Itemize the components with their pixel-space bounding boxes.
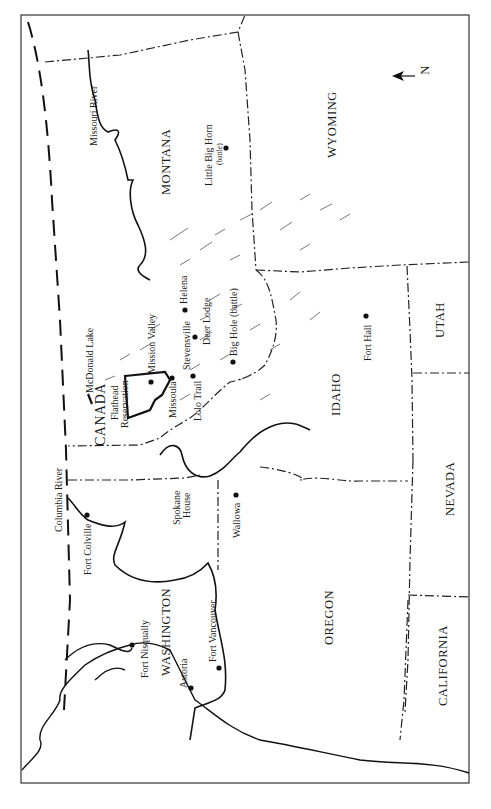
dot-missoula bbox=[169, 375, 174, 380]
label-wyoming: WYOMING bbox=[325, 91, 339, 158]
dot-fort-colville bbox=[84, 512, 89, 517]
snake-river bbox=[160, 423, 310, 477]
label-washington: WASHINGTON bbox=[159, 588, 173, 676]
label-deer-lodge: Deer Lodge bbox=[201, 297, 212, 345]
label-idaho: IDAHO bbox=[329, 373, 343, 416]
label-utah: UTAH bbox=[433, 302, 447, 338]
dot-mission-valley bbox=[148, 379, 153, 384]
label-flathead-2: Reservation bbox=[119, 380, 130, 428]
dot-fort-nisqually bbox=[129, 642, 134, 647]
label-columbia-river: Columbia River bbox=[53, 467, 64, 532]
label-missouri-river: Missouri River bbox=[88, 85, 99, 146]
label-wallowa: Wallowa bbox=[231, 502, 242, 538]
label-helena: Helena bbox=[178, 275, 189, 304]
label-big-hole: Big Hole (battle) bbox=[228, 288, 240, 356]
dot-stevensville bbox=[190, 373, 195, 378]
dot-deer-lodge bbox=[192, 334, 197, 339]
north-label: N bbox=[418, 65, 432, 75]
label-montana: MONTANA bbox=[159, 129, 173, 195]
label-little-big-horn-note: (battle) bbox=[215, 143, 224, 165]
label-fort-hall: Fort Hall bbox=[362, 324, 373, 361]
mcdonald-lake-mark bbox=[88, 394, 92, 404]
label-california: CALIFORNIA bbox=[436, 625, 450, 706]
dot-big-hole bbox=[230, 359, 235, 364]
label-fort-vancouver: Fort Vancouver bbox=[207, 600, 218, 662]
labels: CANADA MONTANA WYOMING IDAHO UTAH NEVADA… bbox=[53, 85, 457, 706]
flathead-reservation-outline bbox=[125, 372, 170, 418]
label-little-big-horn: Little Big Horn bbox=[203, 124, 214, 186]
label-lolo-trail: Lolo Trail bbox=[192, 380, 203, 421]
label-astoria: Astoria bbox=[178, 658, 189, 688]
dot-wallowa bbox=[233, 492, 238, 497]
label-canada: CANADA bbox=[93, 383, 108, 446]
label-stevensville: Stevensville bbox=[181, 321, 192, 370]
label-fort-colville: Fort Colville bbox=[82, 523, 93, 575]
dot-fort-hall bbox=[363, 313, 368, 318]
dot-fort-vancouver bbox=[216, 665, 221, 670]
canada-border bbox=[28, 22, 70, 710]
label-oregon: OREGON bbox=[322, 590, 336, 645]
label-missoula: Missoula bbox=[167, 381, 178, 418]
missouri-river bbox=[88, 50, 150, 280]
dot-helena bbox=[182, 307, 187, 312]
label-mcdonald-lake: McDonald Lake bbox=[84, 327, 95, 393]
label-fort-nisqually: Fort Nisqually bbox=[139, 620, 150, 678]
dot-little-big-horn bbox=[223, 145, 228, 150]
state-borders bbox=[45, 15, 469, 740]
label-nevada: NEVADA bbox=[443, 462, 457, 516]
label-mission-valley: Mission Valley bbox=[146, 314, 157, 374]
pacific-coast bbox=[22, 643, 469, 773]
north-arrow-icon: N bbox=[392, 65, 432, 81]
dot-astoria bbox=[188, 685, 193, 690]
label-spokane-2: House bbox=[181, 492, 192, 518]
map-canvas: CANADA MONTANA WYOMING IDAHO UTAH NEVADA… bbox=[0, 0, 491, 809]
